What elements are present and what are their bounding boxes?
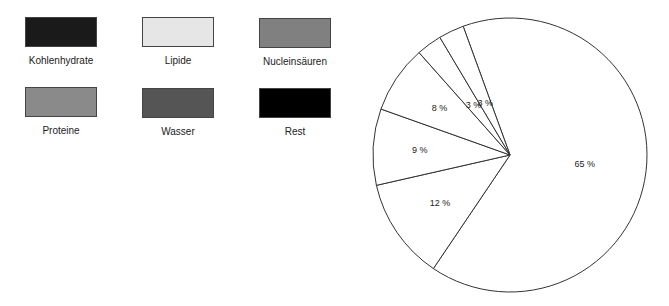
legend-label: Rest bbox=[250, 126, 340, 137]
slice-label: 3 % bbox=[478, 98, 494, 108]
legend-item-rest: Rest bbox=[250, 88, 340, 137]
legend-swatch bbox=[259, 88, 331, 118]
slice-label: 8 % bbox=[432, 103, 448, 113]
legend-label: Nucleinsäuren bbox=[250, 56, 340, 67]
legend-item-proteine: Proteine bbox=[16, 87, 106, 136]
legend-item-nucleinsaeuren: Nucleinsäuren bbox=[250, 18, 340, 67]
legend-swatch bbox=[25, 17, 97, 47]
legend-item-wasser: Wasser bbox=[133, 88, 223, 137]
legend-label: Wasser bbox=[133, 126, 223, 137]
legend-item-kohlenhydrate: Kohlenhydrate bbox=[16, 17, 106, 66]
legend-swatch bbox=[25, 87, 97, 117]
legend-swatch bbox=[259, 18, 331, 48]
legend-label: Proteine bbox=[16, 125, 106, 136]
slice-label: 9 % bbox=[412, 145, 428, 155]
legend-item-lipide: Lipide bbox=[133, 17, 223, 66]
pie-chart: 65 %12 %9 %8 %3 %3 % bbox=[362, 0, 669, 306]
legend-swatch bbox=[142, 17, 214, 47]
legend-swatch bbox=[142, 88, 214, 118]
legend-label: Lipide bbox=[133, 55, 223, 66]
slice-label: 12 % bbox=[430, 198, 451, 208]
legend-label: Kohlenhydrate bbox=[16, 55, 106, 66]
slice-label: 65 % bbox=[575, 159, 596, 169]
pie-slices bbox=[373, 18, 647, 292]
